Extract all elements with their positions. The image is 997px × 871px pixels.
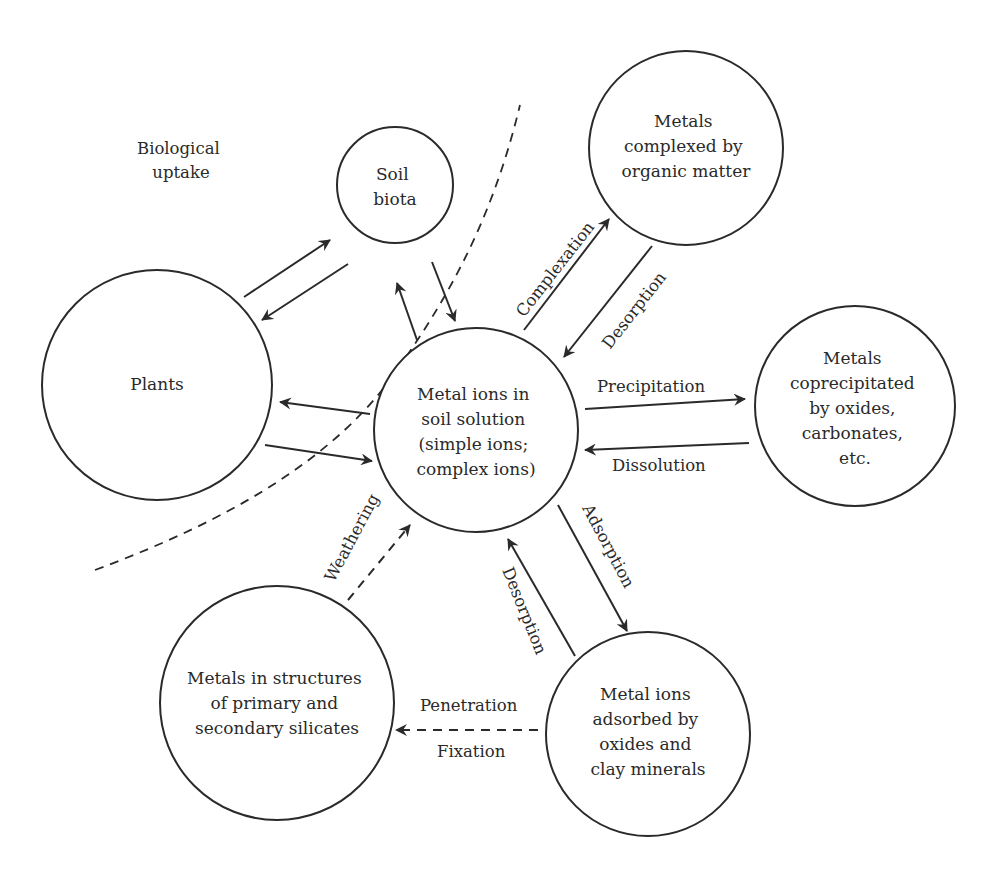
arrow-solution-to-plants xyxy=(280,402,370,414)
label-fixation: Fixation xyxy=(437,742,506,761)
arrow-biota-to-plants xyxy=(262,264,348,320)
label-desorption-mineral: Desorption xyxy=(498,564,550,657)
arrow-precipitation xyxy=(585,399,745,409)
node-coprecipitated: Metals coprecipitated by oxides, carbona… xyxy=(755,306,955,506)
arrow-dissolution xyxy=(585,443,749,450)
label-desorption-organic: Desorption xyxy=(598,268,670,353)
node-silicates: Metals in structures of primary and seco… xyxy=(160,586,394,820)
label-weathering: Weathering xyxy=(321,490,383,585)
svg-text:Plants: Plants xyxy=(130,374,184,394)
label-complexation: Complexation xyxy=(512,218,598,321)
arrow-solution-to-biota xyxy=(397,283,417,340)
arrow-plants-to-solution xyxy=(265,445,372,461)
node-plants: Plants xyxy=(42,270,272,500)
label-dissolution: Dissolution xyxy=(612,456,706,475)
node-soil-solution: Metal ions in soil solution (simple ions… xyxy=(374,328,578,532)
label-penetration: Penetration xyxy=(420,696,518,715)
label-precipitation: Precipitation xyxy=(597,377,705,396)
arrow-complexation xyxy=(524,219,609,330)
svg-text:Metals in structures of: Metals in structures of primary and seco… xyxy=(187,668,367,738)
arrow-plants-to-biota xyxy=(244,240,330,297)
node-adsorbed: Metal ions adsorbed by oxides and clay m… xyxy=(546,632,750,836)
node-organic-complexes: Metals complexed by organic matter xyxy=(589,51,783,245)
node-soil-biota: Soil biota xyxy=(337,127,453,243)
soil-metal-cycle-diagram: Biological uptake Soil biota Plants Meta… xyxy=(0,0,997,871)
label-adsorption: Adsorption xyxy=(578,500,639,591)
biological-uptake-label: Biological uptake xyxy=(137,139,225,182)
